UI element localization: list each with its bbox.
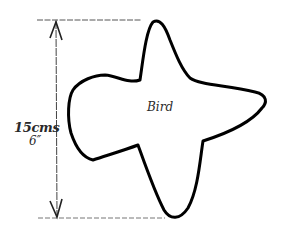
- dimension-imperial-label: 6″: [29, 134, 41, 148]
- dimension-metric-label: 15cms: [14, 120, 60, 135]
- dimension-line: [56, 21, 57, 217]
- shape-name-label: Bird: [147, 100, 173, 114]
- bird-template-diagram: 15cms 6″ Bird: [0, 0, 285, 237]
- arrow-down-icon: [50, 199, 62, 217]
- bird-outline: [69, 21, 266, 217]
- diagram-canvas: [0, 0, 285, 237]
